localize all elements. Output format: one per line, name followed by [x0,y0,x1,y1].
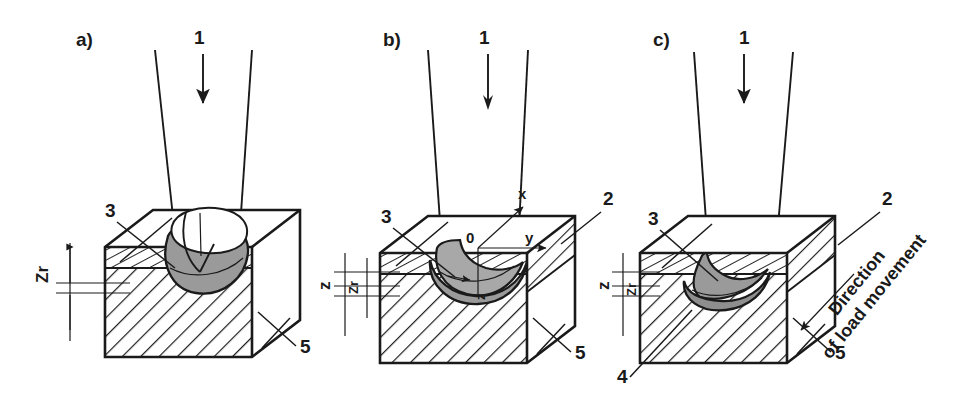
callout-3-b: 3 [381,206,392,227]
callout-2-b: 2 [603,188,614,209]
axis-z-b: z [473,293,488,300]
callout-1-b: 1 [479,27,490,48]
panel-a-indentation [165,208,248,294]
dimension-zr-a: Zr [33,266,52,283]
callout-3-a: 3 [105,200,116,221]
panel-b-label: b) [383,29,401,50]
callout-4-c: 4 [617,366,628,387]
indentation-figure: a) 1 [0,0,977,414]
callout-2-c: 2 [882,188,893,209]
dimension-z-b: z [315,282,334,291]
callout-1-a: 1 [194,27,205,48]
callout-5-a: 5 [300,336,311,357]
callout-5-b: 5 [575,342,586,363]
panel-a-label: a) [76,29,93,50]
axis-x-b: x [518,185,527,202]
axis-origin-b: 0 [466,229,474,246]
panel-c-label: c) [653,29,670,50]
callout-1-c: 1 [739,27,750,48]
figure-canvas: a) 1 [0,0,977,414]
dimension-zr-c: Zr [624,283,639,296]
dimension-zr-b: Zr [346,281,361,294]
callout-3-c: 3 [648,208,659,229]
axis-y-b: y [525,229,534,246]
dimension-z-c: z [594,282,613,291]
